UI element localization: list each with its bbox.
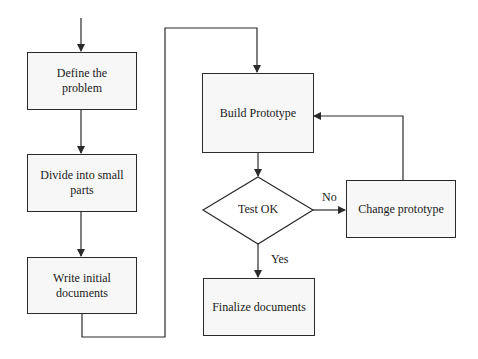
node-label: Finalize documents	[212, 300, 306, 315]
node-divide-parts: Divide into small parts	[27, 154, 137, 212]
edge-label-no: No	[322, 190, 337, 205]
node-test-ok: Test OK	[208, 202, 308, 217]
edge-label-yes: Yes	[271, 252, 288, 267]
node-write-documents: Write initial documents	[27, 257, 137, 314]
node-build-prototype: Build Prototype	[202, 73, 314, 153]
node-label: Write initial documents	[36, 271, 128, 301]
node-define-problem: Define the problem	[27, 52, 137, 110]
arrow-change-build	[314, 116, 403, 180]
node-label: Test OK	[238, 202, 278, 216]
node-finalize-documents: Finalize documents	[203, 278, 315, 336]
node-label: Change prototype	[358, 202, 444, 217]
node-label: Divide into small parts	[36, 168, 128, 198]
node-label: Build Prototype	[220, 106, 296, 121]
node-change-prototype: Change prototype	[346, 180, 456, 238]
node-label: Define the problem	[36, 66, 128, 96]
